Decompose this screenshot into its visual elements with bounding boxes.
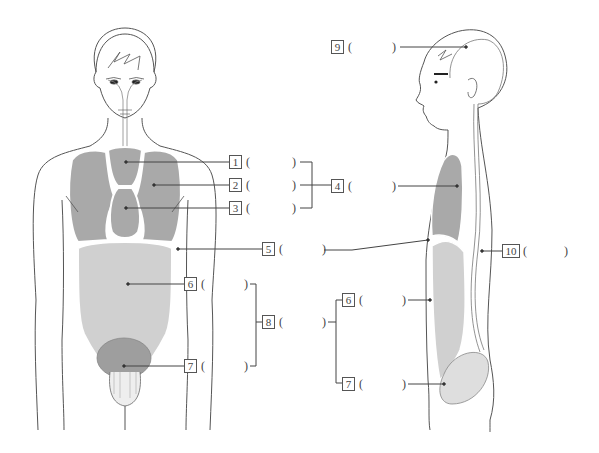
answer-close-paren: ) xyxy=(292,201,296,215)
anatomy-diagram xyxy=(0,0,599,453)
label-number-box: 3 xyxy=(229,201,242,215)
answer-close-paren: ) xyxy=(564,244,568,258)
answer-close-paren: ) xyxy=(244,359,248,373)
answer-open-paren: ( xyxy=(246,178,250,192)
answer-open-paren: ( xyxy=(279,315,283,329)
answer-open-paren: ( xyxy=(348,40,352,54)
answer-close-paren: ) xyxy=(292,178,296,192)
label-number-box: 6 xyxy=(184,277,197,291)
label-number-box: 6 xyxy=(342,293,355,307)
label-number-box: 7 xyxy=(342,377,355,391)
front-abdominal-organs xyxy=(78,242,172,406)
label-number-box: 4 xyxy=(331,179,344,193)
answer-open-paren: ( xyxy=(523,244,527,258)
answer-open-paren: ( xyxy=(348,179,352,193)
label-number-box: 5 xyxy=(262,242,275,256)
answer-close-paren: ) xyxy=(392,40,396,54)
answer-open-paren: ( xyxy=(246,201,250,215)
answer-open-paren: ( xyxy=(201,359,205,373)
answer-open-paren: ( xyxy=(359,377,363,391)
answer-open-paren: ( xyxy=(279,242,283,256)
label-number-box: 2 xyxy=(229,178,242,192)
answer-close-paren: ) xyxy=(292,155,296,169)
label-number-box: 1 xyxy=(229,155,242,169)
answer-open-paren: ( xyxy=(201,277,205,291)
answer-close-paren: ) xyxy=(402,293,406,307)
label-number-box: 9 xyxy=(331,40,344,54)
answer-open-paren: ( xyxy=(359,293,363,307)
answer-close-paren: ) xyxy=(392,179,396,193)
label-number-box: 8 xyxy=(262,315,275,329)
answer-close-paren: ) xyxy=(322,315,326,329)
answer-close-paren: ) xyxy=(322,242,326,256)
answer-close-paren: ) xyxy=(244,277,248,291)
answer-open-paren: ( xyxy=(246,155,250,169)
answer-close-paren: ) xyxy=(402,377,406,391)
label-number-box: 7 xyxy=(184,359,197,373)
label-number-box: 10 xyxy=(502,244,520,258)
